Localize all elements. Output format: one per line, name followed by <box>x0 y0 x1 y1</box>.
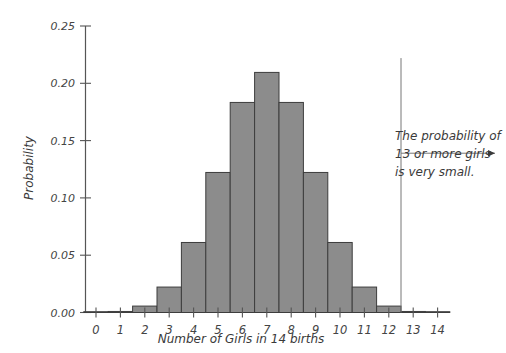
y-tick-label: 0.20 <box>51 77 76 90</box>
annotation-line-2: 13 or more girls <box>395 147 491 161</box>
x-tick-label: 1 <box>117 323 124 337</box>
chart-canvas: 0.000.050.100.150.200.25 012345678910111… <box>0 0 506 353</box>
x-tick-label: 0 <box>92 323 99 337</box>
bar <box>181 242 205 312</box>
y-axis-tick-labels: 0.000.050.100.150.200.25 <box>51 20 76 320</box>
annotation-line-1: The probability of <box>395 129 503 143</box>
y-tick-label: 0.10 <box>51 192 76 205</box>
y-axis-title: Probability <box>22 135 36 200</box>
x-tick-label: 11 <box>357 323 372 337</box>
bar <box>230 102 254 312</box>
bar <box>328 242 352 312</box>
x-axis-title: Number of Girls in 14 births <box>158 332 325 346</box>
y-tick-label: 0.00 <box>51 307 76 320</box>
bar-series <box>84 72 450 312</box>
x-tick-label: 2 <box>141 323 148 337</box>
annotation-line-3: is very small. <box>395 165 475 179</box>
x-tick-label: 12 <box>381 323 396 337</box>
x-tick-label: 14 <box>430 323 445 337</box>
x-tick-label: 10 <box>333 323 348 337</box>
probability-histogram-figure: 0.000.050.100.150.200.25 012345678910111… <box>0 0 506 353</box>
bar <box>279 102 303 312</box>
bar <box>206 172 230 312</box>
bar <box>255 72 279 312</box>
y-tick-label: 0.25 <box>51 20 76 33</box>
bar <box>303 172 327 312</box>
x-tick-label: 13 <box>406 323 421 337</box>
y-tick-label: 0.15 <box>51 135 76 148</box>
y-tick-label: 0.05 <box>51 249 76 262</box>
